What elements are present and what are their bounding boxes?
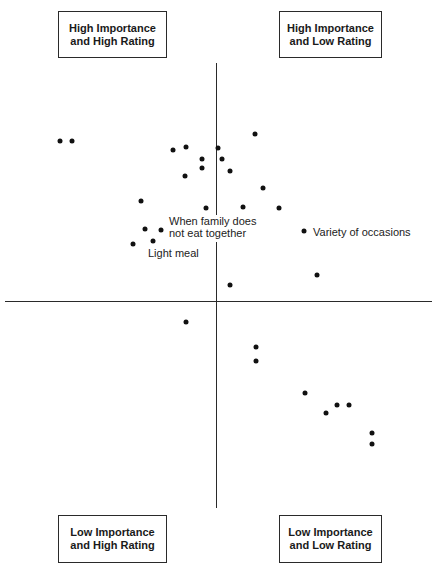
data-point xyxy=(216,146,221,151)
quadrant-label-low-importance-high-rating: Low Importance and High Rating xyxy=(58,515,167,563)
data-point xyxy=(200,157,205,162)
data-point xyxy=(335,403,340,408)
data-point xyxy=(303,391,308,396)
data-point xyxy=(139,199,144,204)
vertical-axis-lower xyxy=(216,242,217,508)
data-point xyxy=(315,273,320,278)
data-point xyxy=(184,145,189,150)
data-point xyxy=(261,186,266,191)
data-point xyxy=(204,206,209,211)
data-point xyxy=(302,229,307,234)
data-point xyxy=(159,228,164,233)
data-point xyxy=(151,239,156,244)
data-point xyxy=(277,206,282,211)
quadrant-label-line: and Low Rating xyxy=(288,539,372,552)
quadrant-label-line: and High Rating xyxy=(69,35,156,48)
data-point xyxy=(70,139,75,144)
data-point xyxy=(324,411,329,416)
annotation-line: When family does xyxy=(169,215,256,227)
data-point xyxy=(254,345,259,350)
quadrant-label-line: and Low Rating xyxy=(287,35,374,48)
quadrant-label-line: High Importance xyxy=(287,22,374,35)
data-point xyxy=(347,403,352,408)
horizontal-axis xyxy=(5,301,432,302)
annotation-light-meal: Light meal xyxy=(148,247,199,259)
annotation-line: not eat together xyxy=(169,227,256,239)
quadrant-label-line: and High Rating xyxy=(70,539,154,552)
quadrant-label-line: Low Importance xyxy=(70,526,154,539)
annotation-variety-of-occasions: Variety of occasions xyxy=(313,226,411,238)
data-point xyxy=(200,166,205,171)
data-point xyxy=(131,242,136,247)
data-point xyxy=(220,157,225,162)
quadrant-label-line: Low Importance xyxy=(288,526,372,539)
annotation-family-not-eat-together: When family does not eat together xyxy=(169,215,256,239)
data-point xyxy=(241,205,246,210)
quadrant-label-high-importance-high-rating: High Importance and High Rating xyxy=(58,11,167,58)
data-point xyxy=(183,174,188,179)
data-point xyxy=(253,132,258,137)
quadrant-label-line: High Importance xyxy=(69,22,156,35)
data-point xyxy=(143,227,148,232)
data-point xyxy=(370,442,375,447)
data-point xyxy=(228,169,233,174)
vertical-axis-upper xyxy=(216,63,217,216)
quadrant-label-low-importance-low-rating: Low Importance and Low Rating xyxy=(279,515,382,563)
quadrant-chart: High Importance and High Rating High Imp… xyxy=(0,0,440,576)
data-point xyxy=(58,139,63,144)
quadrant-label-high-importance-low-rating: High Importance and Low Rating xyxy=(279,11,382,58)
data-point xyxy=(171,148,176,153)
data-point xyxy=(184,320,189,325)
data-point xyxy=(254,359,259,364)
data-point xyxy=(228,283,233,288)
data-point xyxy=(370,431,375,436)
